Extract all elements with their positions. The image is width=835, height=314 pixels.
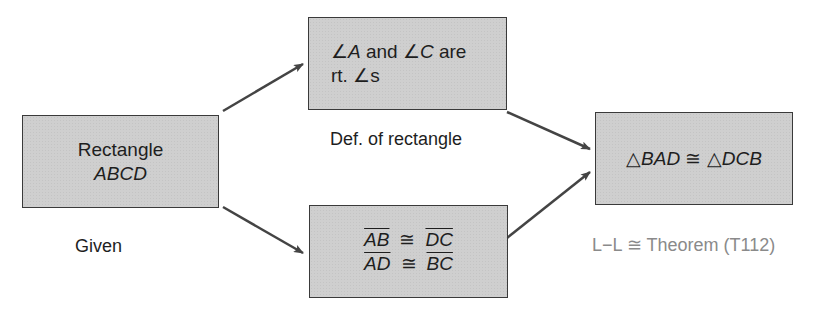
angle-symbol: ∠ [331, 41, 348, 62]
angle-symbol: ∠ [403, 41, 420, 62]
triangle-symbol: △ [707, 148, 722, 169]
triangle-symbol: △ [626, 148, 641, 169]
segments-row-2: AD ≅ BC [364, 252, 453, 276]
arrow-given-to-segments [223, 207, 303, 253]
reason-congruent-triangles: L−L ≅ Theorem (T112) [592, 234, 775, 256]
triangle-bad: BAD [641, 148, 680, 169]
arrow-angles-to-triangles [507, 112, 590, 149]
node-given-line1: Rectangle [78, 138, 164, 162]
node-right-angles: ∠A and ∠C are rt. ∠s [308, 17, 507, 110]
node-congruent-segments: AB ≅ DC AD ≅ BC [309, 205, 508, 298]
triangle-dcb: DCB [722, 148, 762, 169]
congruent-symbol: ≅ [401, 252, 417, 276]
segment-bc: BC [427, 252, 453, 276]
congruent-symbol: ≅ [399, 228, 415, 252]
reason-given: Given [75, 236, 122, 257]
node-given-line2: ABCD [94, 162, 147, 186]
segments-row-1: AB ≅ DC [364, 228, 453, 252]
reason-right-angles: Def. of rectangle [330, 129, 462, 150]
segment-ad: AD [364, 252, 390, 276]
node-congruent-triangles: △BAD ≅ △DCB [595, 112, 793, 205]
triangles-statement: △BAD ≅ △DCB [626, 147, 762, 171]
congruent-symbol: ≅ [685, 148, 701, 169]
node-right-angles-line2: rt. ∠s [331, 64, 506, 88]
segment-dc: DC [425, 228, 452, 252]
segment-ab: AB [364, 228, 389, 252]
arrow-segments-to-triangles [507, 172, 590, 238]
arrow-given-to-angles [223, 64, 303, 111]
node-right-angles-line1: ∠A and ∠C are [331, 40, 506, 64]
node-given: Rectangle ABCD [22, 115, 219, 208]
angle-symbol: ∠ [353, 65, 370, 86]
